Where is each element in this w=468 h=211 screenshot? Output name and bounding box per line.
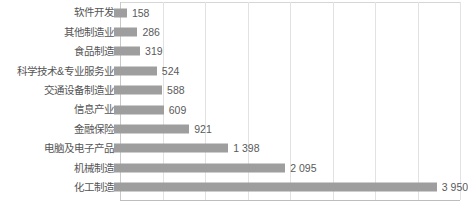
- category-label: 食品制造: [0, 46, 114, 57]
- value-label: 609: [169, 104, 187, 115]
- bar-row: 其他制造业286: [0, 22, 461, 41]
- bar-zone: 588: [114, 81, 461, 100]
- bar-zone: 921: [114, 119, 461, 138]
- bar: [114, 8, 127, 17]
- category-label: 软件开发: [0, 7, 114, 18]
- category-label: 其他制造业: [0, 27, 114, 38]
- bar-row: 化工制造3 950: [0, 178, 461, 197]
- value-label: 1 398: [233, 143, 259, 154]
- value-label: 524: [162, 66, 180, 77]
- bar: [114, 125, 189, 134]
- bar: [114, 163, 285, 172]
- value-label: 286: [142, 27, 160, 38]
- bar-row: 科学技术&专业服务业524: [0, 61, 461, 80]
- bar-zone: 158: [114, 3, 461, 22]
- bar-zone: 1 398: [114, 139, 461, 158]
- value-label: 588: [167, 85, 185, 96]
- bar: [114, 144, 228, 153]
- category-label: 化工制造: [0, 182, 114, 193]
- category-label: 科学技术&专业服务业: [0, 66, 114, 77]
- bar-zone: 3 950: [114, 178, 461, 197]
- bar: [114, 47, 140, 56]
- bar-zone: 286: [114, 22, 461, 41]
- bar-row: 信息产业609: [0, 100, 461, 119]
- bar-row: 食品制造319: [0, 42, 461, 61]
- bar-row: 金融保险921: [0, 119, 461, 138]
- plot-bottom-border: [120, 200, 460, 201]
- bar: [114, 183, 437, 192]
- bar-row: 交通设备制造业588: [0, 81, 461, 100]
- bar: [114, 66, 157, 75]
- value-label: 319: [145, 46, 163, 57]
- value-label: 2 095: [290, 163, 316, 174]
- bar-zone: 524: [114, 61, 461, 80]
- bar: [114, 28, 137, 37]
- bar-zone: 2 095: [114, 158, 461, 177]
- bar: [114, 86, 162, 95]
- category-label: 电脑及电子产品: [0, 143, 114, 154]
- bar-zone: 319: [114, 42, 461, 61]
- bar: [114, 105, 164, 114]
- bar-rows: 软件开发158其他制造业286食品制造319科学技术&专业服务业524交通设备制…: [0, 3, 461, 197]
- value-label: 3 950: [442, 182, 468, 193]
- category-label: 机械制造: [0, 163, 114, 174]
- bar-row: 软件开发158: [0, 3, 461, 22]
- category-label: 信息产业: [0, 104, 114, 115]
- bar-zone: 609: [114, 100, 461, 119]
- category-label: 交通设备制造业: [0, 85, 114, 96]
- value-label: 158: [132, 7, 150, 18]
- bar-row: 机械制造2 095: [0, 158, 461, 177]
- category-label: 金融保险: [0, 124, 114, 135]
- bar-row: 电脑及电子产品1 398: [0, 139, 461, 158]
- value-label: 921: [194, 124, 212, 135]
